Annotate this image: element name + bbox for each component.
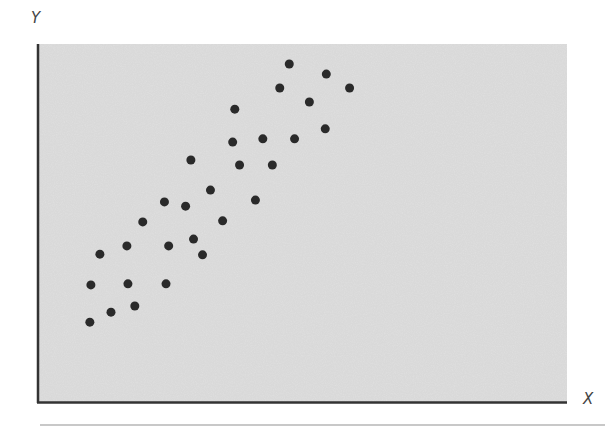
- data-point: [321, 124, 330, 133]
- data-point: [138, 217, 147, 226]
- data-point: [86, 280, 95, 289]
- chart-canvas: [0, 0, 605, 427]
- data-point: [189, 235, 198, 244]
- data-point: [322, 70, 331, 79]
- data-point: [230, 105, 239, 114]
- data-point: [251, 196, 260, 205]
- data-point: [198, 250, 207, 259]
- data-point: [218, 216, 227, 225]
- data-point: [206, 186, 215, 195]
- data-point: [95, 250, 104, 259]
- data-point: [164, 241, 173, 250]
- x-axis-label: X: [583, 390, 593, 408]
- data-point: [228, 138, 237, 147]
- y-axis-label: Y: [31, 9, 40, 27]
- data-point: [290, 134, 299, 143]
- plot-texture: [38, 44, 567, 402]
- data-point: [181, 202, 190, 211]
- data-point: [305, 97, 314, 106]
- data-point: [123, 279, 132, 288]
- scatter-chart: Y X: [0, 0, 605, 427]
- data-point: [130, 302, 139, 311]
- data-point: [160, 197, 169, 206]
- data-point: [268, 161, 277, 170]
- bottom-divider: [40, 424, 605, 426]
- data-point: [85, 318, 94, 327]
- data-point: [345, 84, 354, 93]
- data-point: [162, 279, 171, 288]
- data-point: [122, 241, 131, 250]
- data-point: [258, 134, 267, 143]
- data-point: [285, 60, 294, 69]
- data-point: [186, 155, 195, 164]
- data-point: [107, 308, 116, 317]
- data-point: [275, 84, 284, 93]
- data-point: [235, 161, 244, 170]
